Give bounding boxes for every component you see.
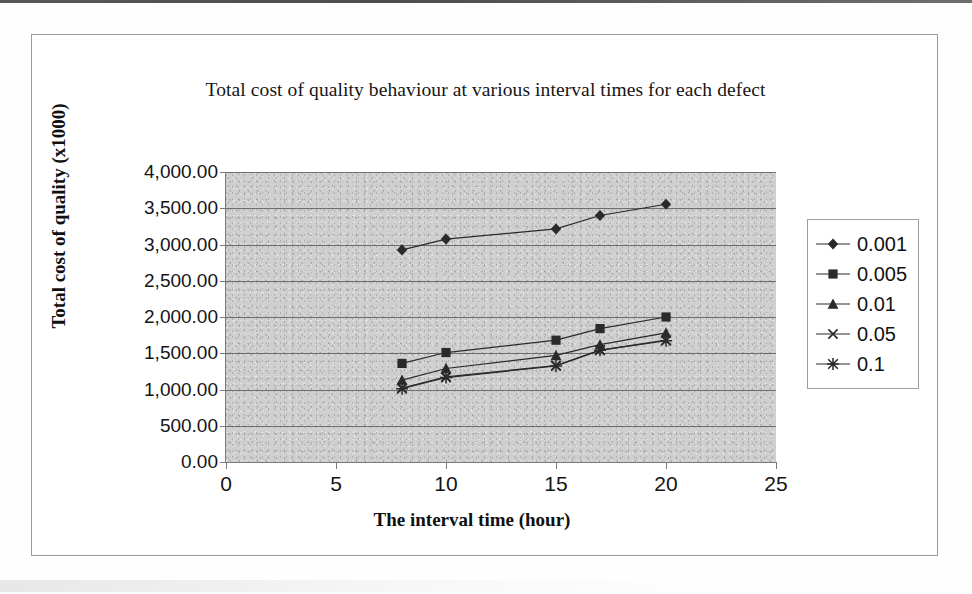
legend-marker-star — [815, 355, 851, 373]
star-marker — [550, 360, 562, 372]
square-marker — [551, 336, 560, 345]
series-line — [402, 204, 666, 250]
square-marker — [828, 269, 837, 278]
legend-label: 0.01 — [857, 293, 896, 316]
x-axis-tick — [556, 462, 557, 469]
y-axis-tick-label: 1,000.00 — [68, 379, 218, 401]
chart-legend: 0.0010.0050.010.050.1 — [807, 219, 919, 389]
diamond-marker — [828, 238, 838, 249]
diamond-marker — [441, 233, 451, 244]
star-marker — [827, 358, 839, 370]
square-marker — [595, 324, 604, 333]
y-axis-title: Total cost of quality (x1000) — [48, 66, 70, 366]
series-plot — [226, 172, 776, 462]
x-axis-tick-label: 25 — [746, 472, 806, 496]
x-axis-tick-label: 10 — [416, 472, 476, 496]
scan-edge-artifact — [0, 0, 972, 3]
scanned-page: Total cost of quality behaviour at vario… — [0, 0, 972, 594]
legend-marker-diamond — [815, 235, 851, 253]
y-axis-tick-label: 2,000.00 — [68, 306, 218, 328]
legend-marker-triangle — [815, 295, 851, 313]
y-axis-tick-label: 2,500.00 — [68, 270, 218, 292]
scan-bottom-artifact — [0, 580, 700, 592]
legend-item-0.005[interactable]: 0.005 — [808, 259, 918, 289]
x-axis-tick — [666, 462, 667, 469]
star-marker — [660, 335, 672, 347]
series-0.05 — [397, 336, 670, 393]
y-axis-tick-label: 3,000.00 — [68, 234, 218, 256]
x-axis-tick — [776, 462, 777, 469]
x-axis-tick-label: 20 — [636, 472, 696, 496]
star-marker — [440, 372, 452, 384]
square-marker — [441, 348, 450, 357]
series-0.01 — [397, 327, 672, 385]
y-axis-tick-label: 500.00 — [68, 415, 218, 437]
y-axis-tick-label: 1,500.00 — [68, 342, 218, 364]
diamond-marker — [551, 223, 561, 234]
star-marker — [594, 344, 606, 356]
x-axis-line — [225, 462, 777, 463]
x-axis-tick-label: 0 — [196, 472, 256, 496]
square-marker — [397, 359, 406, 368]
x-axis-title: The interval time (hour) — [192, 509, 752, 531]
y-axis-tick-label: 0.00 — [68, 451, 218, 473]
chart-title: Total cost of quality behaviour at vario… — [32, 79, 939, 101]
legend-marker-cross — [815, 325, 851, 343]
legend-item-0.1[interactable]: 0.1 — [808, 349, 918, 379]
legend-marker-square — [815, 265, 851, 283]
x-axis-tick — [226, 462, 227, 469]
y-axis-tick-label: 4,000.00 — [68, 161, 218, 183]
diamond-marker — [661, 199, 671, 210]
diamond-marker — [397, 244, 407, 255]
legend-item-0.05[interactable]: 0.05 — [808, 319, 918, 349]
legend-item-0.01[interactable]: 0.01 — [808, 289, 918, 319]
series-0.001 — [397, 199, 671, 256]
legend-item-0.001[interactable]: 0.001 — [808, 229, 918, 259]
legend-label: 0.1 — [857, 353, 885, 376]
x-axis-tick-label: 5 — [306, 472, 366, 496]
chart-frame: Total cost of quality behaviour at vario… — [31, 34, 938, 556]
x-axis-tick — [446, 462, 447, 469]
diamond-marker — [595, 210, 605, 221]
plot-area-wrapper: 0.00500.001,000.001,500.002,000.002,500.… — [226, 172, 776, 462]
star-marker — [396, 383, 408, 395]
legend-label: 0.001 — [857, 233, 907, 256]
y-axis-tick-label: 3,500.00 — [68, 197, 218, 219]
series-0.1 — [396, 335, 672, 395]
x-axis-tick-label: 15 — [526, 472, 586, 496]
x-axis-tick — [336, 462, 337, 469]
legend-label: 0.005 — [857, 263, 907, 286]
legend-label: 0.05 — [857, 323, 896, 346]
series-0.005 — [397, 312, 670, 368]
square-marker — [661, 312, 670, 321]
